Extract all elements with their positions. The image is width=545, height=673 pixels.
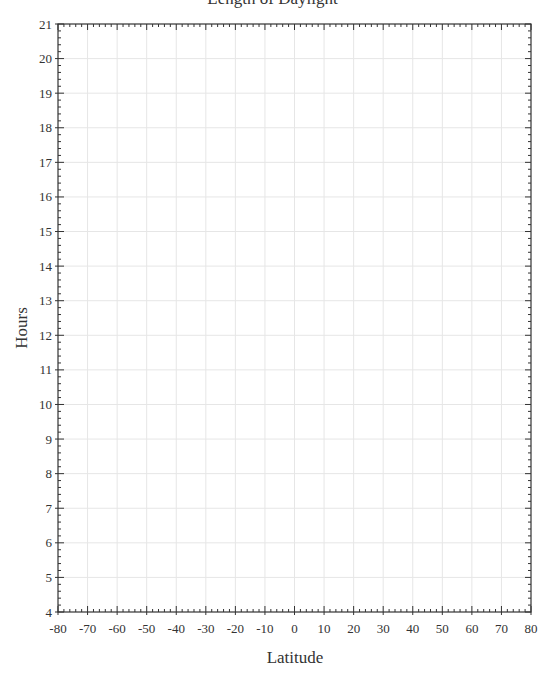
y-tick-label: 21 [39, 17, 52, 32]
x-axis-label: Latitude [0, 648, 545, 668]
x-tick-label: 50 [436, 621, 449, 636]
x-tick-label: 70 [495, 621, 508, 636]
x-tick-label: -10 [256, 621, 273, 636]
x-tick-label: -60 [108, 621, 125, 636]
y-tick-label: 18 [39, 120, 52, 135]
y-tick-label: 19 [39, 86, 52, 101]
y-tick-label: 7 [46, 501, 53, 516]
y-tick-label: 15 [39, 224, 52, 239]
x-tick-label: -70 [79, 621, 96, 636]
y-tick-label: 17 [39, 155, 53, 170]
x-tick-label: -80 [49, 621, 66, 636]
x-tick-label: 10 [318, 621, 331, 636]
y-tick-label: 14 [39, 259, 53, 274]
chart-plot-area: -80-70-60-50-40-30-20-100102030405060708… [0, 0, 545, 673]
y-tick-label: 6 [46, 535, 53, 550]
x-tick-label: 0 [291, 621, 298, 636]
y-tick-label: 10 [39, 397, 52, 412]
y-tick-label: 20 [39, 51, 52, 66]
y-tick-label: 16 [39, 189, 53, 204]
y-tick-label: 13 [39, 293, 52, 308]
y-tick-label: 12 [39, 328, 52, 343]
y-tick-label: 4 [46, 605, 53, 620]
y-tick-label: 9 [46, 432, 53, 447]
x-tick-label: 40 [406, 621, 419, 636]
y-axis-label: Hours [12, 298, 32, 358]
x-tick-label: -50 [138, 621, 155, 636]
x-tick-label: -40 [168, 621, 185, 636]
y-tick-label: 11 [39, 362, 52, 377]
x-tick-label: 60 [465, 621, 478, 636]
x-tick-label: -20 [227, 621, 244, 636]
y-tick-label: 5 [46, 570, 53, 585]
x-tick-label: 30 [377, 621, 390, 636]
x-tick-label: 80 [525, 621, 538, 636]
x-tick-label: -30 [197, 621, 214, 636]
x-tick-label: 20 [347, 621, 360, 636]
y-tick-label: 8 [46, 466, 53, 481]
